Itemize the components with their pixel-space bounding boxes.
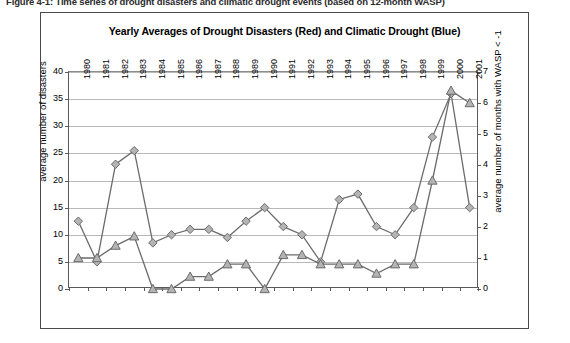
y-axis-left-tick-label: 35: [53, 93, 63, 103]
y-axis-right-tick-label: 6: [483, 97, 488, 107]
series-marker-diamond: [372, 222, 380, 230]
y-axis-left-tick-label: 15: [53, 202, 63, 212]
series-marker-triangle: [130, 232, 139, 240]
y-axis-right-tick-label: 0: [483, 283, 488, 293]
series-marker-diamond: [167, 231, 175, 239]
series-marker-diamond: [111, 160, 119, 168]
series-marker-diamond: [335, 195, 343, 203]
y-axis-right-tick-label: 4: [483, 159, 488, 169]
y-axis-left-tick-label: 0: [58, 283, 63, 293]
series-marker-triangle: [372, 269, 381, 277]
figure-caption: Figure 4-1: Time series of drought disas…: [6, 0, 566, 7]
series-marker-diamond: [391, 231, 399, 239]
chart-title: Yearly Averages of Drought Disasters (Re…: [41, 25, 528, 37]
y-axis-left-label-text: average number of disasters: [37, 61, 48, 181]
series-marker-diamond: [465, 203, 473, 211]
y-axis-left-tick-label: 5: [58, 256, 63, 266]
y-axis-right-tick-label: 1: [483, 252, 488, 262]
series-marker-diamond: [410, 203, 418, 211]
series-layer: [69, 72, 479, 289]
y-axis-left-label: average number of disasters: [35, 13, 49, 230]
y-axis-left-tick-label: 20: [53, 175, 63, 185]
y-axis-right-tick-label: 3: [483, 190, 488, 200]
series-marker-diamond: [354, 190, 362, 198]
y-axis-left-tick-label: 10: [53, 229, 63, 239]
series-marker-diamond: [298, 231, 306, 239]
y-axis-right-tick-label: 2: [483, 221, 488, 231]
series-marker-triangle: [111, 241, 120, 249]
figure-frame: Yearly Averages of Drought Disasters (Re…: [40, 12, 529, 329]
series-marker-diamond: [74, 217, 82, 225]
series-marker-diamond: [186, 225, 194, 233]
series-line: [78, 91, 469, 289]
series-marker-triangle: [446, 86, 455, 94]
series-marker-triangle: [465, 98, 474, 106]
y-axis-right-label: average number of months with WASP < -1: [490, 13, 504, 230]
y-axis-right-label-text: average number of months with WASP < -1: [492, 30, 503, 212]
y-axis-left-tick-label: 30: [53, 120, 63, 130]
y-axis-right-tick-label: 5: [483, 128, 488, 138]
series-marker-diamond: [149, 239, 157, 247]
y-axis-left-tick-label: 40: [53, 66, 63, 76]
series-marker-triangle: [428, 176, 437, 184]
y-axis-left-tick-label: 25: [53, 147, 63, 157]
series-marker-diamond: [428, 133, 436, 141]
plot-area: 0510152025303540 01234567 19801981198219…: [68, 71, 478, 288]
series-marker-diamond: [205, 225, 213, 233]
